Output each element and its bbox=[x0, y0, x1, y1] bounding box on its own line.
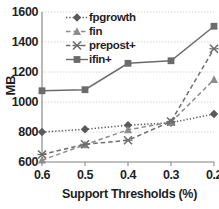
legend-label: fin bbox=[89, 25, 102, 37]
legend-label: prepost+ bbox=[89, 39, 136, 51]
legend-item-prepost+[interactable]: prepost+ bbox=[66, 38, 166, 52]
x-axis-tick-label: 0.6 bbox=[34, 168, 50, 182]
data-point-square bbox=[211, 23, 218, 30]
x-axis-tick-label: 0.3 bbox=[163, 168, 179, 182]
data-point-square bbox=[39, 87, 46, 94]
data-point-x bbox=[209, 45, 218, 53]
legend-item-ifin+[interactable]: ifin+ bbox=[66, 52, 166, 66]
data-point-triangle bbox=[210, 75, 218, 83]
memory-usage-line-chart: MB 6008001000120014001600 0.60.50.40.30.… bbox=[0, 0, 219, 209]
data-point-diamond bbox=[73, 13, 81, 21]
x-axis-title: Support Thresholds (%) bbox=[40, 187, 219, 201]
y-axis-tick-label: 600 bbox=[0, 155, 38, 169]
x-axis-tick-label: 0.2 bbox=[206, 168, 219, 182]
data-point-x bbox=[123, 136, 132, 144]
y-axis-tick-label: 1000 bbox=[0, 95, 38, 109]
legend-marker-triangle-icon bbox=[66, 25, 88, 38]
data-point-x bbox=[72, 41, 81, 49]
data-point-square bbox=[74, 56, 81, 63]
x-axis-tick-label: 0.4 bbox=[120, 168, 136, 182]
x-axis-ticks bbox=[42, 162, 214, 166]
y-axis-tick-labels: 6008001000120014001600 bbox=[0, 0, 38, 209]
legend-marker-diamond-icon bbox=[66, 11, 88, 24]
data-point-diamond bbox=[210, 110, 218, 118]
legend-item-fpgrowth[interactable]: fpgrowth bbox=[66, 10, 166, 24]
data-point-diamond bbox=[38, 128, 46, 136]
legend-marker-square-icon bbox=[66, 53, 88, 66]
data-point-square bbox=[82, 86, 89, 93]
x-axis-tick-label: 0.5 bbox=[77, 168, 93, 182]
legend-label: fpgrowth bbox=[89, 11, 136, 23]
legend-label: ifin+ bbox=[89, 53, 111, 65]
legend-marker-x-icon bbox=[66, 39, 88, 52]
data-point-square bbox=[168, 57, 175, 64]
y-axis-tick-label: 1600 bbox=[0, 5, 38, 19]
y-axis-tick-label: 1200 bbox=[0, 65, 38, 79]
y-axis-tick-label: 800 bbox=[0, 125, 38, 139]
y-axis-tick-label: 1400 bbox=[0, 35, 38, 49]
chart-legend: fpgrowthfinprepost+ifin+ bbox=[66, 10, 166, 66]
legend-item-fin[interactable]: fin bbox=[66, 24, 166, 38]
